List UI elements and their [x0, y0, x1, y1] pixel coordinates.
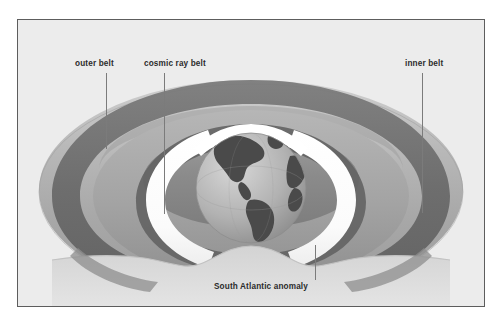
leader-line-inner-belt [422, 73, 423, 213]
leader-line-cosmic-ray-belt [164, 73, 165, 214]
label-outer-belt: outer belt [75, 59, 114, 68]
diagram-artwork: outer belt cosmic ray belt inner belt So… [18, 20, 484, 306]
diagram-page: outer belt cosmic ray belt inner belt So… [0, 0, 503, 326]
label-cosmic-ray-belt: cosmic ray belt [144, 59, 206, 68]
earth-globe [196, 133, 306, 243]
label-south-atlantic-anomaly: South Atlantic anomaly [214, 282, 308, 291]
leader-line-outer-belt [106, 73, 107, 149]
label-inner-belt: inner belt [405, 59, 443, 68]
figure-frame: outer belt cosmic ray belt inner belt So… [17, 19, 485, 307]
leader-line-south-atlantic-anomaly [315, 245, 316, 280]
